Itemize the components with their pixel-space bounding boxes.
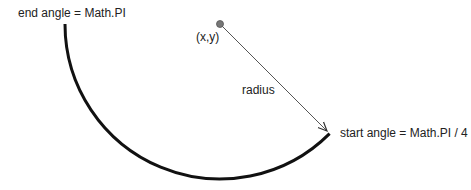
center-label: (x,y) — [196, 30, 219, 44]
end-angle-label: end angle = Math.PI — [18, 6, 126, 20]
arc-path — [65, 24, 330, 179]
arc-diagram — [0, 0, 471, 190]
center-point — [217, 21, 224, 28]
radius-label: radius — [242, 83, 275, 97]
radius-line — [221, 25, 327, 131]
start-angle-label: start angle = Math.PI / 4 — [340, 126, 468, 140]
